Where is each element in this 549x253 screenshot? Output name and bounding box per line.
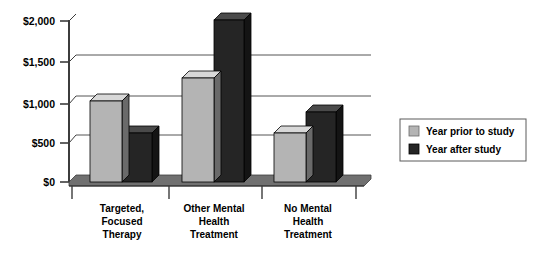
- category-label-1: Targeted, Focused Therapy: [100, 203, 144, 240]
- category-label-2-line-3: Treatment: [190, 229, 238, 240]
- y-tick-label-500: $500: [32, 137, 56, 149]
- y-axis-tick-labels: $2,000 $1,500 $1,000 $500 $0: [23, 15, 55, 188]
- category-label-1-line-3: Therapy: [103, 229, 142, 240]
- bar-g3-prior[interactable]: [274, 126, 313, 182]
- category-label-1-line-2: Focused: [101, 216, 142, 227]
- y-tick-label-0: $0: [43, 176, 55, 188]
- y-tick-label-1000: $1,000: [23, 98, 55, 110]
- bar-group-1: [90, 94, 159, 182]
- category-label-3-line-2: Health: [293, 216, 324, 227]
- bar-g1-prior[interactable]: [90, 94, 129, 182]
- category-label-3: No Mental Health Treatment: [284, 203, 332, 240]
- depth-connectors: [69, 14, 76, 143]
- chart-canvas: $2,000 $1,500 $1,000 $500 $0: [0, 0, 549, 253]
- legend-swatch-prior: [409, 126, 419, 136]
- category-label-1-line-1: Targeted,: [100, 203, 144, 214]
- y-tick-label-2000: $2,000: [23, 15, 55, 27]
- category-label-2-line-1: Other Mental: [183, 203, 244, 214]
- bar-chart: $2,000 $1,500 $1,000 $500 $0: [0, 0, 549, 253]
- legend-label-after: Year after study: [426, 144, 501, 155]
- legend-swatch-after: [409, 144, 419, 154]
- category-label-2-line-2: Health: [199, 216, 230, 227]
- bar-g2-prior[interactable]: [182, 71, 221, 182]
- category-label-2: Other Mental Health Treatment: [183, 203, 244, 240]
- y-tick-label-1500: $1,500: [23, 56, 55, 68]
- bar-group-3: [274, 105, 343, 182]
- category-label-3-line-3: Treatment: [284, 229, 332, 240]
- legend-label-prior: Year prior to study: [426, 126, 515, 137]
- chart-legend: Year prior to study Year after study: [400, 119, 526, 161]
- x-axis-ticks: [72, 186, 356, 199]
- category-label-3-line-1: No Mental: [284, 203, 332, 214]
- y-axis-ticks: [60, 21, 69, 182]
- bar-group-2: [182, 13, 251, 182]
